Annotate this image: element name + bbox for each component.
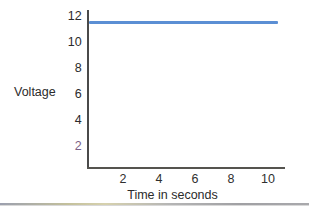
x-tick-label-4: 4 bbox=[149, 172, 169, 186]
bottom-divider-shadow bbox=[0, 205, 309, 206]
y-axis-title: Voltage bbox=[14, 86, 56, 99]
y-tick-label-8: 8 bbox=[48, 62, 82, 75]
x-tick-label-6: 6 bbox=[185, 172, 205, 186]
y-tick-label-2: 2 bbox=[48, 140, 82, 153]
x-tick-label-10: 10 bbox=[258, 172, 278, 186]
series-line-voltage bbox=[89, 21, 278, 24]
x-tick-label-2: 2 bbox=[113, 172, 133, 186]
x-axis-title: Time in seconds bbox=[0, 188, 309, 202]
plot-area bbox=[89, 10, 285, 168]
y-tick-label-10: 10 bbox=[48, 36, 82, 49]
y-tick-label-12: 12 bbox=[48, 10, 82, 23]
voltage-time-chart: 12 10 8 6 4 2 Voltage 2 4 6 8 10 Time in… bbox=[0, 0, 309, 211]
x-tick-label-8: 8 bbox=[221, 172, 241, 186]
y-tick-label-4: 4 bbox=[48, 114, 82, 127]
